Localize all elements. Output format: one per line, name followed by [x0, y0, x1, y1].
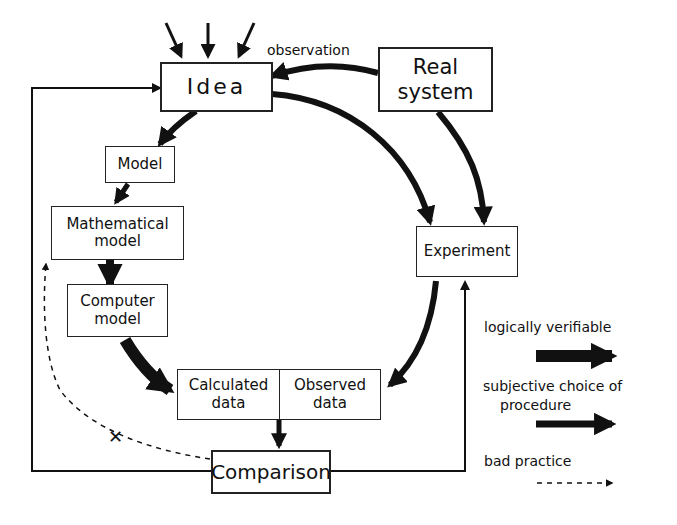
computer-calculated-arrow [125, 340, 170, 390]
legend-logically-verifiable-label: logically verifiable [484, 319, 611, 335]
model-math-arrow [116, 184, 128, 202]
computer-model-label-1: Computer [80, 293, 155, 310]
observed-data-node: Observed data [279, 369, 381, 420]
idea-experiment-arrow [272, 94, 430, 222]
idea-model-arrow [160, 111, 196, 144]
observation-label: observation [267, 42, 350, 58]
real-system-node: Real system [378, 47, 493, 112]
idea-label: Idea [187, 74, 246, 99]
idea-node: Idea [160, 62, 273, 112]
input-arrow-1 [166, 23, 181, 56]
mathematical-model-label-2: model [94, 233, 141, 250]
observed-data-label-2: data [313, 395, 347, 412]
real-system-label-2: system [398, 80, 474, 104]
real-system-experiment-arrow [438, 112, 484, 222]
legend-bad-practice-label: bad practice [484, 453, 571, 469]
experiment-label: Experiment [424, 243, 511, 260]
mathematical-model-label-1: Mathematical [66, 216, 168, 233]
observation-arrow [272, 66, 378, 76]
diagram-edges [0, 0, 677, 525]
computer-model-node: Computer model [67, 284, 168, 337]
legend-subjective-choice-label-2: procedure [500, 397, 571, 413]
legend-subjective-choice-label-1: subjective choice of [483, 378, 622, 394]
calculated-data-label-2: data [212, 395, 246, 412]
mathematical-model-node: Mathematical model [51, 206, 184, 260]
calculated-data-node: Calculated data [177, 369, 280, 420]
model-label: Model [117, 156, 162, 173]
experiment-observed-arrow [390, 281, 436, 385]
calculated-data-label-1: Calculated [189, 377, 269, 394]
observed-data-label-1: Observed [294, 377, 366, 394]
model-node: Model [105, 146, 175, 183]
bad-practice-cross-icon: ✕ [108, 426, 123, 447]
comparison-node: Comparison [211, 450, 331, 494]
input-arrow-3 [239, 23, 254, 56]
real-system-label-1: Real [413, 55, 458, 79]
comparison-label: Comparison [211, 461, 331, 484]
computer-model-label-2: model [94, 311, 141, 328]
experiment-node: Experiment [416, 226, 518, 277]
